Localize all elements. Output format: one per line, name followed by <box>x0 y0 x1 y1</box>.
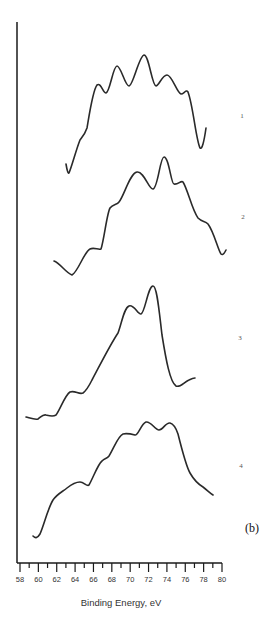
tick-label-58: 58 <box>16 575 24 584</box>
spectrum-curve-1 <box>66 55 206 173</box>
tick-label-66: 66 <box>89 575 97 584</box>
panel-label: (b) <box>245 521 259 535</box>
x-axis-ticks <box>20 563 222 572</box>
tick-label-76: 76 <box>181 575 189 584</box>
tick-label-80: 80 <box>218 575 226 584</box>
x-axis-tick-labels: 58 60 62 64 66 68 70 72 74 76 78 80 <box>16 575 226 584</box>
x-axis-label: Binding Energy, eV <box>81 597 162 608</box>
tick-label-72: 72 <box>144 575 152 584</box>
curve-label-2: 2 <box>241 213 245 221</box>
spectrum-curve-3 <box>26 286 195 419</box>
tick-label-64: 64 <box>71 575 79 584</box>
tick-label-62: 62 <box>53 575 61 584</box>
curve-label-1: 1 <box>240 112 244 120</box>
tick-label-68: 68 <box>108 575 116 584</box>
xps-spectra-chart: 58 60 62 64 66 68 70 72 74 76 78 80 Bind… <box>0 0 279 626</box>
curve-label-4: 4 <box>239 462 243 470</box>
spectrum-curve-4 <box>33 422 213 538</box>
tick-label-70: 70 <box>126 575 134 584</box>
tick-label-60: 60 <box>34 575 42 584</box>
curve-label-3: 3 <box>238 334 242 342</box>
tick-label-74: 74 <box>163 575 171 584</box>
spectrum-curve-2 <box>54 157 226 275</box>
tick-label-78: 78 <box>199 575 207 584</box>
